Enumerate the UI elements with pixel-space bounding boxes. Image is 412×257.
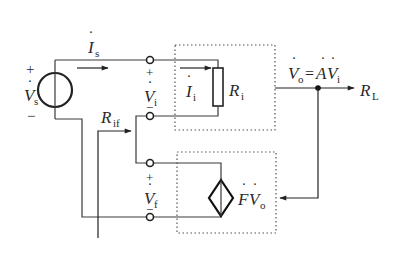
svg-text:·: · [292,51,296,66]
voltage-source-icon [38,60,72,119]
wire-fb-top [154,163,221,180]
label-source-current: I · s [87,25,99,59]
svg-text:·: · [187,69,191,84]
svg-text:A: A [315,64,327,83]
svg-text:·: · [253,177,257,192]
svg-text:i: i [193,91,196,103]
svg-text:·: · [242,177,246,192]
svg-text:F: F [237,190,249,209]
wire-ri-bottom [154,106,218,116]
svg-text:·: · [28,74,32,89]
svg-text:R: R [100,108,112,127]
terminal-vf-plus [147,160,154,167]
label-input-current: I · i [185,69,196,103]
svg-text:·: · [89,25,93,40]
wire-ri-top [154,60,218,68]
svg-text:o: o [260,199,266,211]
svg-text:R: R [228,81,240,100]
wire-vi-minus-to-vf-plus [136,116,146,163]
svg-text:=: = [305,65,314,82]
svg-text:f: f [154,198,158,210]
svg-text:·: · [331,51,335,66]
svg-text:R: R [359,81,371,100]
svg-text:I: I [185,82,193,101]
svg-text:·: · [148,177,152,192]
circuit-diagram: + V · s − I · s + V · i − I · i R i V · … [0,0,412,257]
feedback-path [280,88,318,198]
svg-text:−: − [146,100,153,115]
svg-text:o: o [298,73,304,85]
svg-text:i: i [154,96,157,108]
svg-text:s: s [95,47,99,59]
svg-text:if: if [113,117,120,129]
svg-text:s: s [34,95,38,107]
label-feedback-resistance: R if [100,108,120,129]
label-load: R L [359,81,379,102]
dependent-source-icon [209,180,233,216]
wire-source-return [55,119,146,217]
svg-text:·: · [148,75,152,90]
label-feedback-source: F · V · o [237,177,266,211]
svg-text:−: − [27,108,35,124]
label-input-resistor: R i [228,81,244,102]
resistor-ri-icon [213,68,223,106]
label-feedback-voltage: + V · f − [144,170,158,217]
svg-text:·: · [321,51,325,66]
svg-text:I: I [87,38,95,57]
label-source-voltage: + V · s − [24,61,38,124]
label-output-expression: V · o = A · V · i [288,51,340,85]
rif-arrow [98,131,131,238]
svg-text:−: − [146,202,153,217]
label-input-voltage: + V · i − [144,65,157,115]
terminal-vi-plus [147,57,154,64]
svg-text:i: i [241,90,244,102]
wire-fb-bottom [154,216,221,217]
svg-text:i: i [337,73,340,85]
svg-text:L: L [372,90,379,102]
